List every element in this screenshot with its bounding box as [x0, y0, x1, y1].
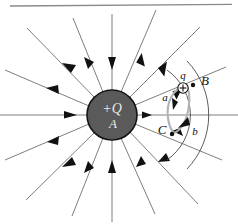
field-arrow-202: [47, 136, 59, 145]
charged-sphere: +Q A: [87, 90, 137, 140]
field-line-292: [121, 138, 155, 214]
field-arrow-90: [108, 57, 116, 70]
field-line-112: [73, 18, 103, 92]
path-label-a: a: [162, 91, 168, 103]
page-border-line: [10, 4, 232, 6]
point-c-dot: [170, 132, 174, 136]
field-line-135: [27, 28, 95, 98]
path-arrow-b: [178, 117, 190, 128]
figure-root: +Q A q B: [0, 0, 238, 224]
field-arrow-158: [46, 85, 59, 94]
test-charge: q: [178, 69, 188, 93]
electric-field-figure: +Q A q B: [0, 0, 238, 224]
point-c-label: C: [158, 122, 167, 137]
path-arrow-a: [172, 98, 178, 110]
field-line-68: [121, 10, 156, 92]
field-arrow-180: [64, 111, 77, 119]
field-arrow-292: [136, 156, 146, 167]
field-line-225: [26, 132, 95, 200]
path-label-b: b: [192, 125, 198, 137]
test-charge-label: q: [180, 69, 186, 81]
field-arrow-45: [157, 61, 167, 77]
point-b-dot: [191, 83, 195, 87]
sphere-body-label: A: [108, 116, 117, 131]
sphere-charge-label: +Q: [102, 101, 122, 116]
field-arrow-68: [136, 53, 146, 67]
field-arrow-0: [142, 112, 152, 119]
field-arrow-270: [108, 160, 116, 173]
point-b-label: B: [201, 73, 209, 88]
field-arrow-248: [84, 161, 94, 173]
field-arrow-315: [158, 153, 170, 162]
